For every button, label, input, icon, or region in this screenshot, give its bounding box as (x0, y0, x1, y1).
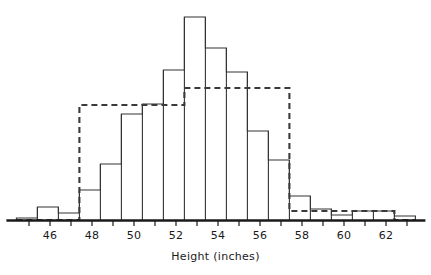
x-axis-ticks-group (29, 221, 407, 226)
x-tick-label-60: 60 (324, 229, 364, 242)
histogram-outline (16, 17, 415, 220)
histogram-bars-group (16, 17, 415, 220)
x-tick-label-58: 58 (282, 229, 322, 242)
x-tick-label-50: 50 (114, 229, 154, 242)
histogram-chart: 464850525456586062 Height (inches) (0, 0, 431, 275)
x-tick-label-48: 48 (72, 229, 112, 242)
fitted-overlay-group (16, 88, 415, 220)
x-tick-label-54: 54 (198, 229, 238, 242)
x-tick-label-46: 46 (30, 229, 70, 242)
fitted-overlay-outline (16, 88, 415, 220)
x-tick-label-56: 56 (240, 229, 280, 242)
x-tick-label-62: 62 (366, 229, 406, 242)
x-axis-title: Height (inches) (0, 250, 431, 263)
x-tick-label-52: 52 (156, 229, 196, 242)
